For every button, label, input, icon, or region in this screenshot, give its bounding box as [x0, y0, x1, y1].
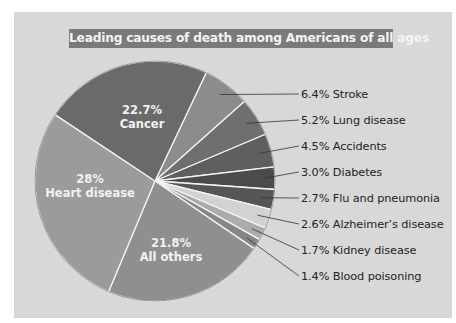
- label-stroke: 6.4% Stroke: [301, 88, 368, 101]
- label-blood-poisoning: 1.4% Blood poisoning: [301, 270, 421, 283]
- label-accidents: 4.5% Accidents: [301, 140, 387, 153]
- label-lung-disease: 5.2% Lung disease: [301, 114, 406, 127]
- others-percent: 21.8%: [126, 236, 216, 250]
- label-kidney-disease: 1.7% Kidney disease: [301, 244, 416, 257]
- cancer-percent: 22.7%: [102, 103, 182, 117]
- leader-line: [247, 238, 299, 276]
- heart-percent: 28%: [35, 172, 145, 186]
- label-flu-pneumonia: 2.7% Flu and pneumonia: [301, 192, 440, 205]
- label-alzheimers: 2.6% Alzheimer’s disease: [301, 218, 444, 231]
- heart-name: Heart disease: [35, 186, 145, 200]
- slice-label-heart-disease: 28% Heart disease: [35, 172, 145, 200]
- label-diabetes: 3.0% Diabetes: [301, 166, 382, 179]
- leader-line: [220, 94, 299, 95]
- others-name: All others: [126, 250, 216, 264]
- slice-label-all-others: 21.8% All others: [126, 236, 216, 264]
- slice-label-cancer: 22.7% Cancer: [102, 103, 182, 131]
- cancer-name: Cancer: [102, 117, 182, 131]
